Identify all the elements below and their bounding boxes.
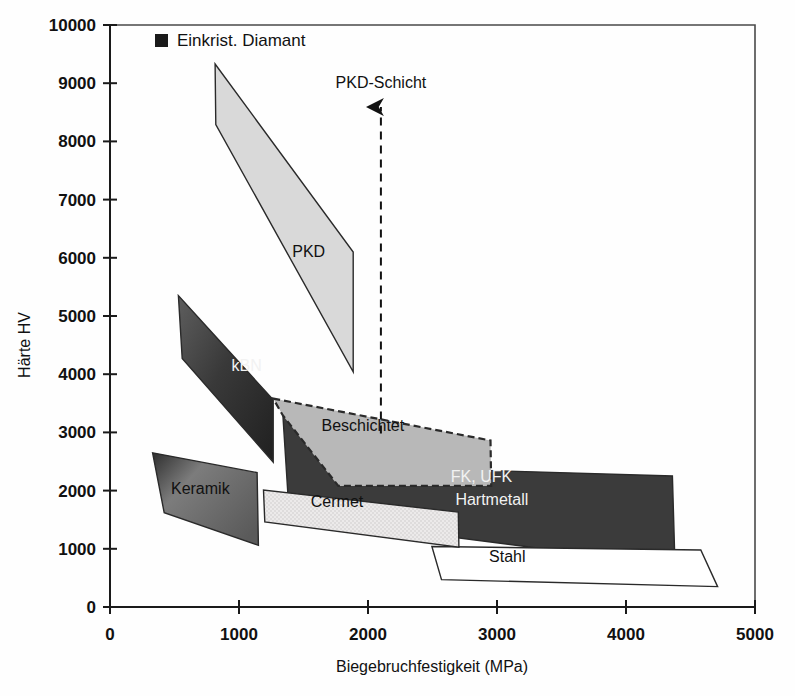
- region-label-pkd: PKD: [292, 243, 325, 260]
- chart-container: PKDkBNKeramikFK, UFKHartmetallBeschichte…: [0, 0, 795, 696]
- region-sublabel-hartmetall: FK, UFK: [451, 468, 513, 485]
- x-tick-label: 3000: [478, 625, 516, 644]
- y-tick-label: 0: [87, 598, 96, 617]
- y-tick-label: 1000: [58, 540, 96, 559]
- y-axis-title: Härte HV: [16, 312, 33, 378]
- region-kbn: [178, 296, 273, 463]
- legend-label: Einkrist. Diamant: [177, 31, 306, 50]
- y-tick-label: 8000: [58, 132, 96, 151]
- region-pkd: [215, 64, 353, 372]
- region-stahl: [432, 547, 718, 587]
- y-tick-label: 10000: [49, 16, 96, 35]
- regions-layer: PKDkBNKeramikFK, UFKHartmetallBeschichte…: [153, 64, 718, 587]
- x-tick-label: 5000: [736, 625, 774, 644]
- region-keramik: [153, 453, 259, 546]
- region-label-beschichtet: Beschichtet: [321, 417, 404, 434]
- x-axis-title: Biegebruchfestigkeit (MPa): [336, 658, 528, 675]
- y-tick-label: 3000: [58, 423, 96, 442]
- y-tick-label: 2000: [58, 482, 96, 501]
- x-tick-label: 4000: [607, 625, 645, 644]
- region-label-cermet: Cermet: [311, 493, 364, 510]
- region-label-hartmetall: Hartmetall: [455, 491, 528, 508]
- region-label-kbn: kBN: [232, 357, 262, 374]
- y-tick-label: 9000: [58, 74, 96, 93]
- y-tick-label: 5000: [58, 307, 96, 326]
- region-label-stahl: Stahl: [489, 548, 525, 565]
- hardness-vs-flexural-strength-chart: PKDkBNKeramikFK, UFKHartmetallBeschichte…: [0, 0, 795, 696]
- x-tick-label: 1000: [220, 625, 258, 644]
- x-axis: 010002000300040005000 Biegebruchfestigke…: [105, 600, 774, 675]
- region-label-keramik: Keramik: [171, 480, 231, 497]
- legend: Einkrist. Diamant: [155, 31, 306, 50]
- y-axis: 0100020003000400050006000700080009000100…: [16, 16, 117, 617]
- y-tick-label: 7000: [58, 191, 96, 210]
- y-tick-label: 6000: [58, 249, 96, 268]
- annotation-label-pkd-schicht: PKD-Schicht: [336, 74, 427, 91]
- x-tick-label: 2000: [349, 625, 387, 644]
- x-tick-label: 0: [105, 625, 114, 644]
- y-ticks: 0100020003000400050006000700080009000100…: [49, 16, 117, 617]
- y-tick-label: 4000: [58, 365, 96, 384]
